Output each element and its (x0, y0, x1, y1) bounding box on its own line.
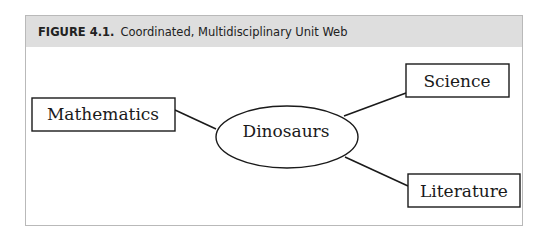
node-dinosaurs-label: Dinosaurs (243, 121, 330, 141)
node-literature-label: Literature (420, 181, 508, 201)
node-dinosaurs: Dinosaurs (216, 106, 358, 168)
node-literature: Literature (408, 174, 520, 207)
edge-dinosaurs-mathematics (175, 110, 216, 129)
node-mathematics-label: Mathematics (47, 104, 159, 124)
node-mathematics: Mathematics (32, 98, 175, 131)
node-science-label: Science (423, 71, 490, 91)
unit-web-diagram: Mathematics Dinosaurs Science Literature (0, 0, 549, 240)
node-science: Science (406, 64, 509, 97)
edge-dinosaurs-literature (345, 157, 408, 186)
edge-dinosaurs-science (344, 93, 406, 116)
